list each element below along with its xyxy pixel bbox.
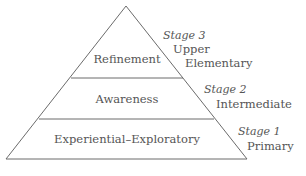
stage-1-level: Primary [247, 141, 294, 153]
stage-2-label: Stage 2 [204, 84, 247, 95]
tier-label-refinement: Refinement [93, 54, 160, 66]
stage-3-level-line2: Elementary [185, 58, 252, 70]
stage-2-level: Intermediate [216, 99, 292, 111]
stage-3-label: Stage 3 [163, 30, 206, 41]
stage-3-level-line1: Upper [173, 44, 210, 56]
tier-label-experiential-exploratory: Experiential–Exploratory [54, 134, 200, 146]
tier-label-awareness: Awareness [96, 94, 159, 106]
stage-1-label: Stage 1 [238, 126, 281, 137]
